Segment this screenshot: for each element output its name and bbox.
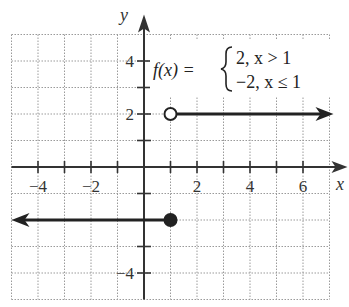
y-tick-label: 4 [126,52,135,71]
piecewise-function-graph: −4−224642−4 x y f(x) = 2, x > 1 −2, x ≤ … [0,0,349,307]
y-axis-label: y [118,5,128,25]
x-tick-label: 2 [193,177,202,196]
x-axis-label: x [335,174,344,194]
open-endpoint [165,108,177,120]
x-tick-label: 4 [246,177,255,196]
function-lhs: f(x) = [153,60,195,81]
x-tick-label: −4 [29,177,48,196]
x-tick-label: −2 [82,177,100,196]
x-tick-label: 6 [299,177,308,196]
y-tick-label: 2 [126,105,135,124]
case-2: −2, x ≤ 1 [236,72,301,92]
case-1: 2, x > 1 [236,48,291,68]
function-definition: f(x) = 2, x > 1 −2, x ≤ 1 [150,40,340,96]
y-tick-label: −4 [116,264,135,283]
closed-endpoint [165,214,177,226]
